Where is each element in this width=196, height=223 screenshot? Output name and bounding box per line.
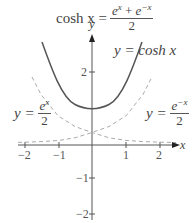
y-axis-arrow-icon — [89, 34, 95, 42]
y-axis-label: y — [89, 17, 95, 30]
x-tick-label: 1 — [123, 149, 129, 161]
y-tick-label: −2 — [76, 208, 89, 220]
exp-curve-label: y = ex2 — [14, 98, 51, 128]
exp-neg-curve-label: y = e−x2 — [146, 98, 189, 128]
x-tick-label: −1 — [53, 149, 66, 161]
y-tick-label: −1 — [76, 172, 89, 184]
x-axis-label: x — [180, 139, 185, 151]
cosh-diagram: cosh x = ex + e−x 2 y x −2 −1 1 2 2 −1 −… — [0, 0, 196, 223]
y-tick-label: 2 — [81, 66, 87, 78]
cosh-curve-label: y = cosh x — [114, 43, 176, 58]
x-axis-arrow-icon — [172, 142, 180, 148]
x-tick-label: −2 — [18, 149, 31, 161]
x-tick-label: 2 — [156, 149, 162, 161]
